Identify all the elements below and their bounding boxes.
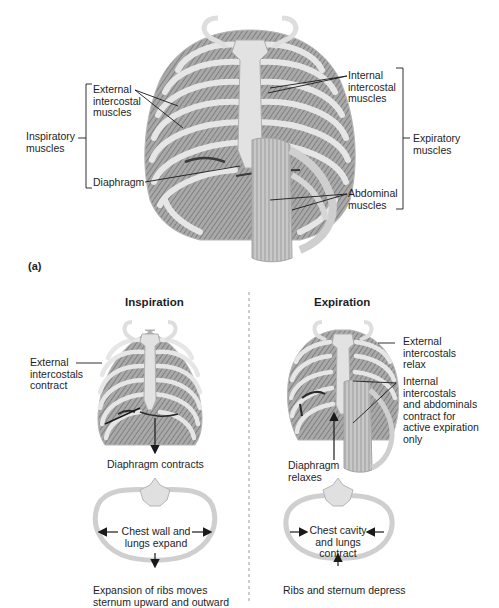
expiration-caption: Ribs and sternum depress: [283, 585, 406, 597]
label-internal-intercostals-abdominals-contract: Internal intercostals and abdominals con…: [403, 376, 479, 445]
expiration-title: Expiration: [314, 296, 370, 308]
rib-cage-large: [145, 18, 355, 262]
inspiration-caption: Expansion of ribs moves sternum upward a…: [93, 585, 229, 608]
label-chest-wall-lungs-expand: Chest wall and lungs expand: [118, 526, 194, 549]
panel-a-tag: (a): [28, 260, 41, 272]
label-diaphragm-relaxes: Diaphragm relaxes: [288, 460, 339, 483]
label-external-intercostals-contract: External intercostals contract: [30, 357, 83, 392]
label-internal-intercostal-muscles: Internal intercostal muscles: [348, 70, 396, 105]
label-chest-cavity-lungs-contract: Chest cavity and lungs contract: [308, 525, 368, 560]
label-inspiratory-muscles: Inspiratory muscles: [26, 131, 75, 154]
cross-section-inspiration: [95, 478, 214, 566]
inspiration-title: Inspiration: [125, 296, 184, 308]
label-expiratory-muscles: Expiratory muscles: [413, 133, 460, 156]
label-abdominal-muscles: Abdominal muscles: [348, 188, 398, 211]
label-external-intercostals-relax: External intercostals relax: [403, 336, 456, 371]
rib-cage-inspiration: [76, 322, 202, 452]
label-diaphragm-contracts: Diaphragm contracts: [107, 459, 204, 471]
rib-cage-expiration: [287, 322, 398, 472]
label-external-intercostal-muscles: External intercostal muscles: [93, 84, 141, 119]
label-diaphragm: Diaphragm: [93, 177, 144, 189]
